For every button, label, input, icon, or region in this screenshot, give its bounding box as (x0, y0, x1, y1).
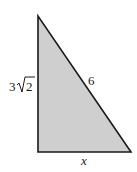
radicand: 2 (26, 79, 33, 94)
triangle-diagram: 3 2 6 x (0, 0, 137, 172)
horizontal-leg-label: x (80, 153, 87, 168)
right-triangle (38, 16, 131, 152)
hypotenuse-label: 6 (88, 73, 95, 88)
vertical-leg-label: 3 (9, 79, 16, 94)
